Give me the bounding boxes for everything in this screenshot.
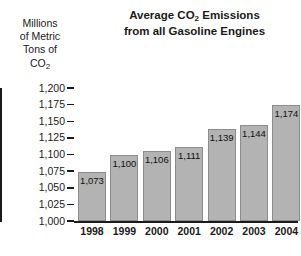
y-axis-label-subscript: 2	[46, 62, 50, 71]
chart-title-line-1-pre: Average CO	[129, 9, 194, 21]
y-axis-tick-label: 1,100	[19, 149, 65, 160]
bar-value-label: 1,073	[78, 175, 106, 186]
bar-value-label: 1,111	[175, 150, 203, 161]
y-axis-tick-mark	[67, 154, 74, 156]
y-axis-tick-mark	[67, 137, 74, 139]
plot-area: 1,0731,1001,1061,1111,1391,1441,174	[74, 88, 298, 221]
y-axis-label-line-2: of Metric	[8, 30, 72, 43]
chart-title-line-1: Average CO2 Emissions	[92, 8, 297, 24]
bar: 1,073	[78, 172, 106, 221]
bar: 1,106	[143, 151, 171, 221]
y-axis-tick-mark	[67, 187, 74, 189]
bar: 1,111	[175, 147, 203, 221]
y-axis-tick-label: 1,200	[19, 83, 65, 94]
y-axis-tick-mark	[67, 170, 74, 172]
y-axis-tick-label: 1,025	[19, 199, 65, 210]
y-axis-label: Millions of Metric Tons of CO2	[8, 17, 72, 71]
bar-value-label: 1,106	[143, 154, 171, 165]
y-axis-tick-label: 1,125	[19, 132, 65, 143]
bar-value-label: 1,139	[208, 132, 236, 143]
y-axis-tick-mark	[67, 87, 74, 89]
y-axis-label-line-3: Tons of	[8, 43, 72, 56]
chart-title-subscript: 2	[195, 14, 199, 23]
bar-value-label: 1,100	[110, 158, 138, 169]
y-axis-tick-label: 1,050	[19, 182, 65, 193]
y-axis-line	[0, 88, 2, 222]
chart-title-line-2: from all Gasoline Engines	[92, 24, 297, 39]
y-axis-tick-label: 1,000	[19, 216, 65, 227]
y-axis-label-line-4: CO2	[8, 57, 72, 71]
bar: 1,144	[240, 125, 268, 221]
bar: 1,100	[110, 155, 138, 222]
bar-value-label: 1,144	[240, 128, 268, 139]
y-axis-tick-mark	[67, 204, 74, 206]
chart-figure: Average CO2 Emissions from all Gasoline …	[0, 0, 301, 256]
chart-title: Average CO2 Emissions from all Gasoline …	[92, 8, 297, 39]
y-axis-tick-mark	[67, 220, 74, 222]
y-axis-tick-label: 1,075	[19, 166, 65, 177]
chart-title-line-1-post: Emissions	[199, 9, 260, 21]
bar: 1,139	[208, 129, 236, 221]
y-axis-label-line-4-text: CO	[30, 57, 46, 69]
y-axis-label-line-1: Millions	[8, 17, 72, 30]
y-axis-tick-label: 1,150	[19, 116, 65, 127]
y-axis-tick-label: 1,175	[19, 99, 65, 110]
bar-value-label: 1,174	[272, 108, 300, 119]
y-axis-tick-mark	[67, 104, 74, 106]
bar: 1,174	[272, 105, 300, 221]
x-axis-tick-label: 2004	[266, 225, 301, 237]
y-axis-tick-mark	[67, 121, 74, 123]
